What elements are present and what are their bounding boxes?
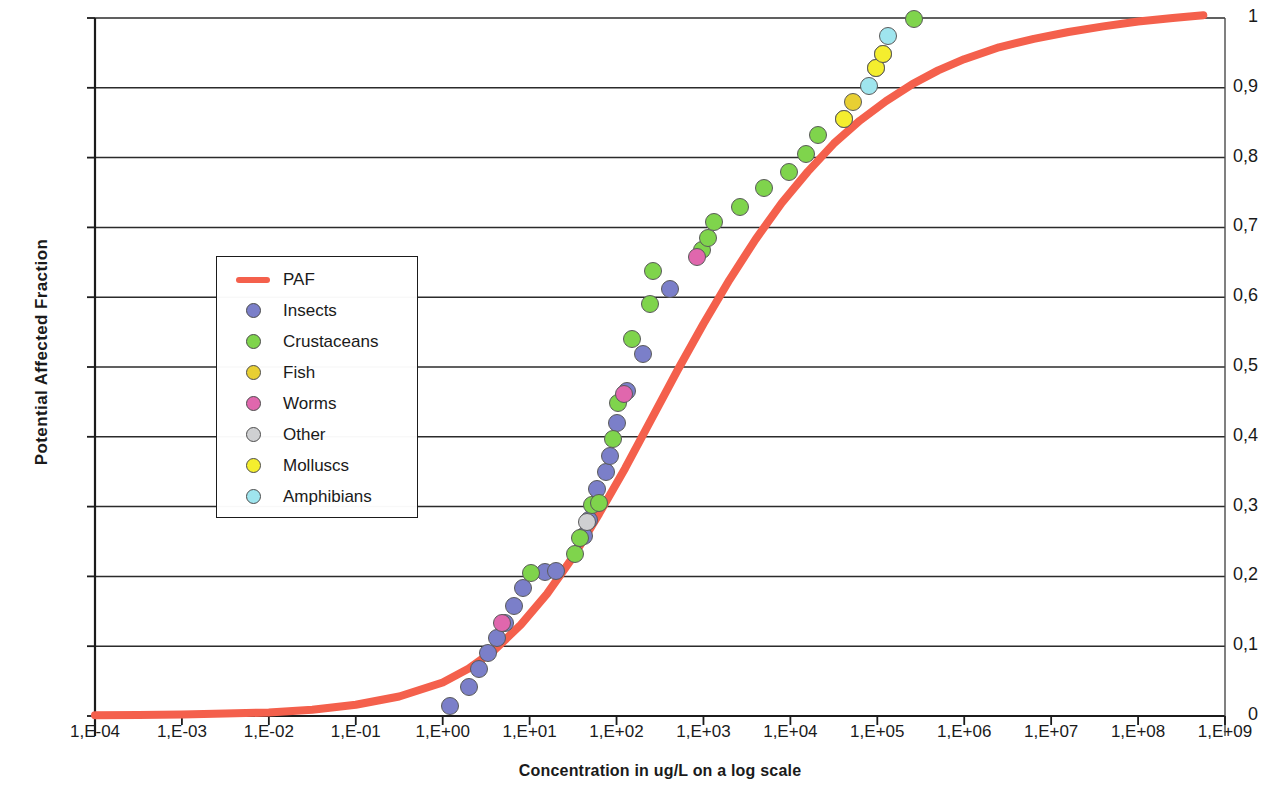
data-point-crustaceans [604,430,622,448]
legend-dot-icon [233,334,273,349]
data-point-worms [493,614,511,632]
legend-item-molluscs[interactable]: Molluscs [217,450,417,481]
legend-item-worms[interactable]: Worms [217,388,417,419]
data-point-crustaceans [809,126,827,144]
legend-item-fish[interactable]: Fish [217,357,417,388]
data-point-crustaceans [590,494,608,512]
legend-dot-icon [233,365,273,380]
data-point-insects [661,280,679,298]
legend-dot-icon [233,427,273,442]
chart-legend: PAFInsectsCrustaceansFishWormsOtherMollu… [216,256,418,518]
data-point-crustaceans [566,545,584,563]
data-point-insects [460,678,478,696]
legend-item-label: PAF [283,270,315,290]
data-point-insects [601,447,619,465]
legend-item-label: Fish [283,363,315,383]
data-point-insects [479,644,497,662]
legend-item-paf[interactable]: PAF [217,264,417,295]
data-point-crustaceans [623,330,641,348]
legend-item-label: Crustaceans [283,332,378,352]
data-point-insects [505,597,523,615]
data-point-insects [608,414,626,432]
legend-dot-icon [233,458,273,473]
data-point-crustaceans [522,564,540,582]
data-point-insects [547,562,565,580]
data-point-crustaceans [644,262,662,280]
data-point-amphibians [860,77,878,95]
legend-item-label: Amphibians [283,487,372,507]
data-point-crustaceans [731,198,749,216]
legend-dot-icon [233,303,273,318]
data-point-crustaceans [797,145,815,163]
data-point-crustaceans [641,295,659,313]
data-point-worms [688,248,706,266]
data-point-insects [514,579,532,597]
data-point-insects [441,697,459,715]
data-point-crustaceans [705,213,723,231]
data-point-crustaceans [755,179,773,197]
data-point-amphibians [879,27,897,45]
legend-dot-icon [233,489,273,504]
data-point-crustaceans [780,163,798,181]
legend-item-insects[interactable]: Insects [217,295,417,326]
legend-item-label: Molluscs [283,456,349,476]
data-point-molluscs [874,45,892,63]
legend-item-label: Other [283,425,326,445]
data-point-crustaceans [699,229,717,247]
legend-item-amphibians[interactable]: Amphibians [217,481,417,512]
legend-item-other[interactable]: Other [217,419,417,450]
legend-item-label: Worms [283,394,337,414]
data-point-insects [634,345,652,363]
data-point-worms [615,385,633,403]
data-point-crustaceans [571,529,589,547]
data-point-fish [844,93,862,111]
legend-item-label: Insects [283,301,337,321]
legend-dot-icon [233,396,273,411]
legend-line-icon [233,277,273,283]
legend-item-crustaceans[interactable]: Crustaceans [217,326,417,357]
data-point-other [578,513,596,531]
data-point-molluscs [835,110,853,128]
data-point-insects [470,660,488,678]
data-point-crustaceans [905,10,923,28]
data-point-insects [597,463,615,481]
